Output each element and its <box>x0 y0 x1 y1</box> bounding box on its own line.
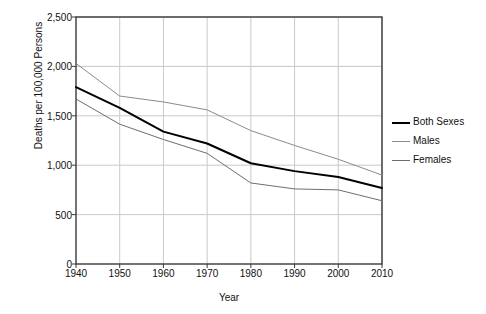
legend-item-females[interactable]: Females <box>392 150 464 169</box>
series-line-females <box>76 99 382 201</box>
x-tick-label: 1960 <box>138 268 188 279</box>
legend-line-icon-females <box>392 154 410 166</box>
legend-line-icon-males <box>392 135 410 147</box>
y-tick-label: 1,500 <box>12 110 72 121</box>
legend-label-males: Males <box>413 135 440 146</box>
y-tick-label: 1,000 <box>12 160 72 171</box>
y-tick-label: 500 <box>12 209 72 220</box>
y-tick-label: 2,500 <box>12 12 72 23</box>
y-tick-label: 2,000 <box>12 61 72 72</box>
legend-item-both-sexes[interactable]: Both Sexes <box>392 112 464 131</box>
x-tick-label: 2000 <box>313 268 363 279</box>
legend: Both Sexes Males Females <box>392 112 464 169</box>
x-tick-label: 1970 <box>182 268 232 279</box>
series-line-males <box>76 63 382 175</box>
x-tick-label: 2010 <box>357 268 407 279</box>
line-chart: Deaths per 100,000 Persons 05001,0001,50… <box>0 0 486 314</box>
y-axis-tick-labels: 05001,0001,5002,0002,500 <box>8 0 72 314</box>
x-tick-label: 1990 <box>270 268 320 279</box>
plot-frame <box>76 17 382 264</box>
x-axis-title: Year <box>76 292 382 303</box>
x-tick-label: 1950 <box>95 268 145 279</box>
legend-label-females: Females <box>413 154 451 165</box>
legend-line-icon-both-sexes <box>392 116 410 128</box>
series-line-both-sexes <box>76 87 382 188</box>
legend-item-males[interactable]: Males <box>392 131 464 150</box>
legend-label-both-sexes: Both Sexes <box>413 116 464 127</box>
x-tick-label: 1980 <box>226 268 276 279</box>
x-tick-label: 1940 <box>51 268 101 279</box>
